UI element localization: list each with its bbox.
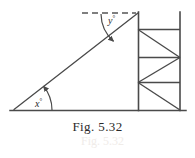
ramp-hypotenuse-line xyxy=(14,13,138,110)
tower-brace-1-line xyxy=(138,30,180,58)
apex-angle-label: y° xyxy=(107,14,115,26)
tower-brace-3-line xyxy=(138,83,180,111)
figure-container: x° y° Fig. 5.32 Fig. 5.32 xyxy=(0,0,195,158)
base-angle-label: x° xyxy=(34,97,42,109)
figure-caption: Fig. 5.32 xyxy=(0,119,195,135)
tower-brace-2-line xyxy=(138,58,180,83)
base-angle-arc xyxy=(44,86,53,110)
